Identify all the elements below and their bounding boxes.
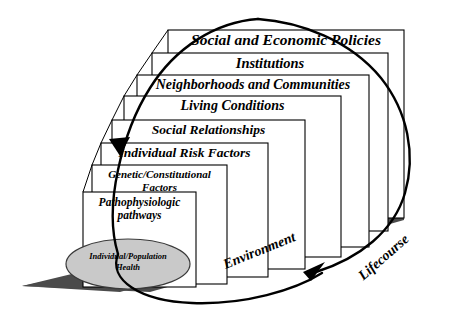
outcome-ellipse <box>66 239 190 289</box>
diagram-vector-layer <box>0 0 459 316</box>
diagram-canvas: Social and Economic Policies Institution… <box>0 0 459 316</box>
